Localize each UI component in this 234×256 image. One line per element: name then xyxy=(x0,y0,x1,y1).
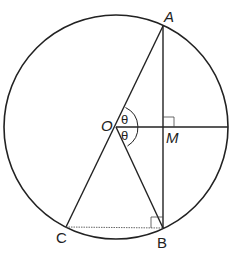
label-A: A xyxy=(163,8,174,25)
line-CB-dotted xyxy=(66,227,163,228)
right-angle-marker-M xyxy=(163,117,174,127)
label-C: C xyxy=(56,229,67,246)
geometry-diagram: A O M C B θ θ xyxy=(0,0,234,256)
label-theta-lower: θ xyxy=(121,128,128,143)
label-O: O xyxy=(101,117,113,134)
diagram-canvas: A O M C B θ θ xyxy=(0,0,234,256)
label-B: B xyxy=(157,234,167,251)
label-theta-upper: θ xyxy=(121,112,128,127)
label-M: M xyxy=(166,129,179,146)
